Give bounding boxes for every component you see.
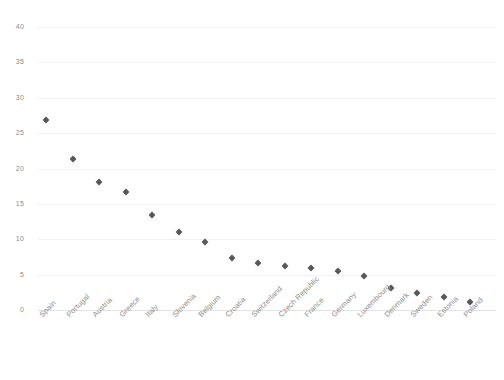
gridline	[38, 62, 496, 63]
data-point	[440, 293, 447, 300]
gridline	[38, 27, 496, 28]
gridline	[38, 98, 496, 99]
y-tick-label: 10	[2, 235, 24, 242]
data-point	[175, 229, 182, 236]
y-tick-label: 5	[2, 271, 24, 278]
data-point	[69, 155, 76, 162]
data-point	[281, 263, 288, 270]
axis-baseline	[38, 310, 496, 311]
y-tick-label: 0	[2, 306, 24, 313]
y-tick-label: 15	[2, 200, 24, 207]
gridline	[38, 204, 496, 205]
data-point	[307, 265, 314, 272]
data-point	[228, 255, 235, 262]
data-point	[42, 117, 49, 124]
plot-area: 0510152025303540	[38, 20, 496, 310]
gridline	[38, 239, 496, 240]
data-point	[148, 212, 155, 219]
y-tick-label: 25	[2, 129, 24, 136]
y-tick-label: 40	[2, 23, 24, 30]
data-point	[466, 299, 473, 306]
data-point	[254, 259, 261, 266]
data-point	[334, 268, 341, 275]
gridline	[38, 133, 496, 134]
scatter-chart: 0510152025303540 SpainPortugalAustriaGre…	[0, 0, 504, 380]
data-point	[413, 289, 420, 296]
gridline	[38, 275, 496, 276]
y-tick-label: 30	[2, 94, 24, 101]
data-point	[360, 272, 367, 279]
data-point	[122, 188, 129, 195]
y-tick-label: 35	[2, 58, 24, 65]
gridline	[38, 169, 496, 170]
data-point	[387, 285, 394, 292]
y-tick-label: 20	[2, 165, 24, 172]
data-point	[95, 178, 102, 185]
